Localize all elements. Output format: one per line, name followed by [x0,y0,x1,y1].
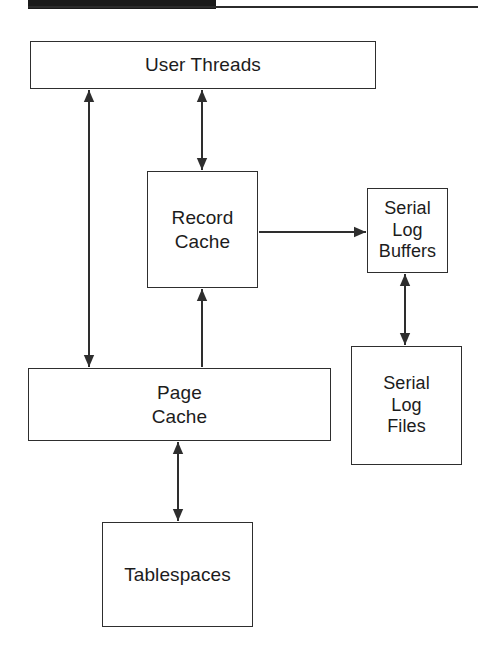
node-label-user-threads: User Threads [145,53,261,76]
arrowhead [84,90,94,102]
node-serial-log-files: Serial Log Files [351,346,462,465]
connector-user-threads--record-cache [197,90,207,170]
arrowhead [84,355,94,367]
arrowhead [197,289,207,301]
node-label-record-cache: Record Cache [172,206,234,252]
arrowhead [354,227,366,237]
diagram-page: User ThreadsRecord CacheSerial Log Buffe… [0,0,483,660]
arrowhead [197,90,207,102]
arrowhead [400,333,410,345]
connector-page-cache--tablespaces [173,442,183,521]
connector-serial-log-buffers--serial-log-files [400,274,410,345]
arrowhead [173,442,183,454]
node-serial-log-buffers: Serial Log Buffers [367,188,448,273]
node-record-cache: Record Cache [147,171,258,288]
node-label-serial-log-files: Serial Log Files [383,373,430,439]
node-page-cache: Page Cache [28,368,331,441]
node-tablespaces: Tablespaces [102,522,253,627]
node-label-page-cache: Page Cache [152,381,207,427]
arrowhead [400,274,410,286]
connector-user-threads--page-cache [84,90,94,367]
connector-page-cache--record-cache [197,289,207,367]
arrowhead [197,158,207,170]
node-user-threads: User Threads [30,41,376,89]
node-label-tablespaces: Tablespaces [124,563,231,586]
node-label-serial-log-buffers: Serial Log Buffers [379,198,436,264]
connector-record-cache--serial-log-buffers [259,227,366,237]
arrowhead [173,509,183,521]
